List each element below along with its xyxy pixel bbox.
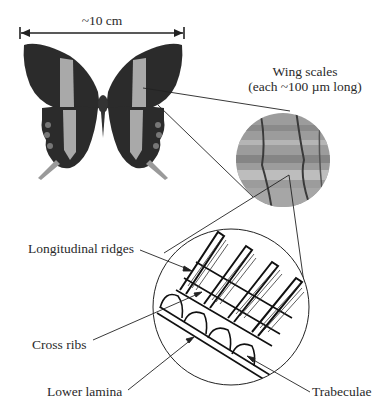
scale-bar-label: ~10 cm xyxy=(72,13,132,29)
butterfly-image xyxy=(24,44,183,180)
label-trabeculae: Trabeculae xyxy=(312,384,371,400)
label-cross-ribs: Cross ribs xyxy=(32,337,86,353)
label-longitudinal-ridges: Longitudinal ridges xyxy=(28,241,134,257)
scale-structure-schematic xyxy=(153,229,309,385)
wing-scales-subtitle: (each ~100 µm long) xyxy=(245,79,365,95)
wing-scales-title: Wing scales xyxy=(245,64,365,80)
diagram-canvas xyxy=(0,0,388,420)
wing-scale-micrograph xyxy=(230,110,340,210)
label-lower-lamina: Lower lamina xyxy=(47,384,122,400)
